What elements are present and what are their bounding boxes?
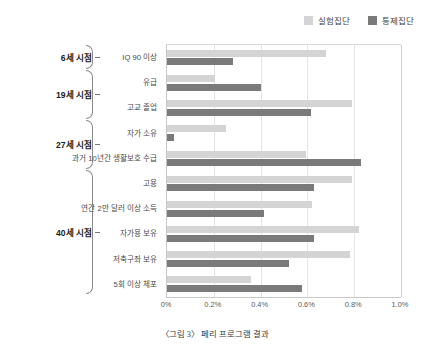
category-label: 저축구좌 보유: [0, 246, 162, 271]
bar-experimental: [167, 176, 352, 183]
category-label: 유급: [0, 69, 162, 94]
bar-row: [167, 121, 401, 146]
bar-experimental: [167, 75, 215, 82]
x-axis: 0%0.2%0.4%0.6%0.8%1.0%: [166, 300, 400, 314]
bar-row: [167, 45, 401, 70]
bar-row: [167, 247, 401, 272]
bar-control: [167, 159, 361, 166]
legend-swatch-experimental: [304, 16, 313, 25]
perry-program-results-figure: 실험집단 통제집단 6세 시점 19세 시점 27세 시점 40세 시점: [0, 0, 430, 352]
legend-label-control: 통제집단: [382, 14, 414, 26]
legend-item-experimental: 실험집단: [304, 14, 350, 26]
x-axis-tick-label: 0%: [161, 300, 172, 309]
gridline: [401, 45, 402, 297]
bar-experimental: [167, 125, 226, 132]
bar-experimental: [167, 251, 350, 258]
bar-control: [167, 109, 311, 116]
figure-caption: 〈그림 3〉 페리 프로그램 결과: [0, 327, 430, 339]
bar-control: [167, 235, 314, 242]
bar-row: [167, 146, 401, 171]
bar-row: [167, 95, 401, 120]
bar-control: [167, 84, 261, 91]
bar-experimental: [167, 151, 306, 158]
bar-experimental: [167, 201, 312, 208]
x-axis-tick-label: 0.2%: [204, 300, 221, 309]
category-label: 연간 2만 달러 이상 소득: [0, 195, 162, 220]
bar-rows-container: [167, 45, 401, 297]
category-label: 자가용 보유: [0, 220, 162, 245]
bar-experimental: [167, 100, 352, 107]
bar-experimental: [167, 50, 326, 57]
legend-swatch-control: [368, 16, 377, 25]
legend-label-experimental: 실험집단: [318, 14, 350, 26]
bar-control: [167, 134, 174, 141]
bar-experimental: [167, 226, 359, 233]
plot-area: [166, 44, 401, 298]
bar-experimental: [167, 276, 251, 283]
legend-item-control: 통제집단: [368, 14, 414, 26]
category-label: IQ 90 이상: [0, 44, 162, 69]
bar-control: [167, 210, 264, 217]
x-axis-tick-label: 0.4%: [251, 300, 268, 309]
bar-control: [167, 260, 289, 267]
category-label-column: IQ 90 이상 유급 고교 졸업 자가 소유 과거 10년간 생활보호 수급 …: [0, 44, 162, 296]
bar-control: [167, 285, 302, 292]
category-label: 5회 이상 체포: [0, 271, 162, 296]
chart-legend: 실험집단 통제집단: [0, 14, 430, 26]
category-label: 자가 소유: [0, 120, 162, 145]
category-label: 고용: [0, 170, 162, 195]
bar-row: [167, 221, 401, 246]
bar-row: [167, 70, 401, 95]
bar-control: [167, 58, 233, 65]
x-axis-tick-label: 0.8%: [345, 300, 362, 309]
x-axis-tick-label: 1.0%: [392, 300, 409, 309]
bar-control: [167, 184, 314, 191]
category-label: 과거 10년간 생활보호 수급: [0, 145, 162, 170]
bar-row: [167, 272, 401, 297]
category-label: 고교 졸업: [0, 94, 162, 119]
bar-row: [167, 171, 401, 196]
bar-row: [167, 196, 401, 221]
x-axis-tick-label: 0.6%: [298, 300, 315, 309]
